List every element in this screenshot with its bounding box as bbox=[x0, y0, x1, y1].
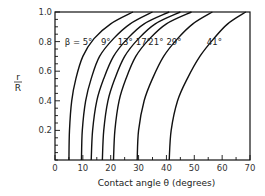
y-tick-label: 0.8 bbox=[38, 37, 52, 47]
x-ticks bbox=[55, 155, 250, 160]
x-tick-label: 20 bbox=[105, 163, 116, 173]
x-tick-label: 70 bbox=[245, 163, 256, 173]
y-tick-label: 0.4 bbox=[38, 96, 52, 106]
y-tick-label: 0.6 bbox=[38, 66, 52, 76]
curve-label: 21° bbox=[148, 37, 163, 47]
x-tick-label: 0 bbox=[52, 163, 57, 173]
y-ticks bbox=[55, 12, 60, 160]
y-axis-label-denominator: R bbox=[15, 83, 21, 93]
x-tick-label: 10 bbox=[77, 163, 88, 173]
x-tick-labels: 010203040506070 bbox=[52, 163, 255, 173]
y-axis-label-numerator: r bbox=[16, 72, 20, 82]
y-tick-labels: 0.20.40.60.81.0 bbox=[38, 7, 52, 135]
curve-label: β = 5° bbox=[65, 37, 93, 47]
curve-label: 9° bbox=[101, 37, 111, 47]
curve-6 bbox=[169, 12, 246, 160]
curve-label: 41° bbox=[207, 37, 222, 47]
x-axis-label: Contact angle θ (degrees) bbox=[98, 178, 215, 188]
x-tick-label: 60 bbox=[217, 163, 228, 173]
curve-labels: β = 5°9°13°17°21°29°41° bbox=[65, 37, 222, 47]
x-tick-label: 40 bbox=[161, 163, 172, 173]
plot-frame bbox=[55, 12, 250, 160]
y-axis-label: r R bbox=[14, 72, 22, 93]
curve-label: 13° bbox=[118, 37, 133, 47]
curve-label: 29° bbox=[166, 37, 181, 47]
chart: 010203040506070 0.20.40.60.81.0 β = 5°9°… bbox=[0, 0, 265, 196]
x-tick-label: 30 bbox=[133, 163, 144, 173]
y-tick-label: 0.2 bbox=[38, 125, 52, 135]
curve-5 bbox=[137, 12, 212, 160]
x-tick-label: 50 bbox=[189, 163, 200, 173]
curve-4 bbox=[114, 12, 192, 160]
curves-group bbox=[69, 12, 246, 160]
y-tick-label: 1.0 bbox=[38, 7, 52, 17]
